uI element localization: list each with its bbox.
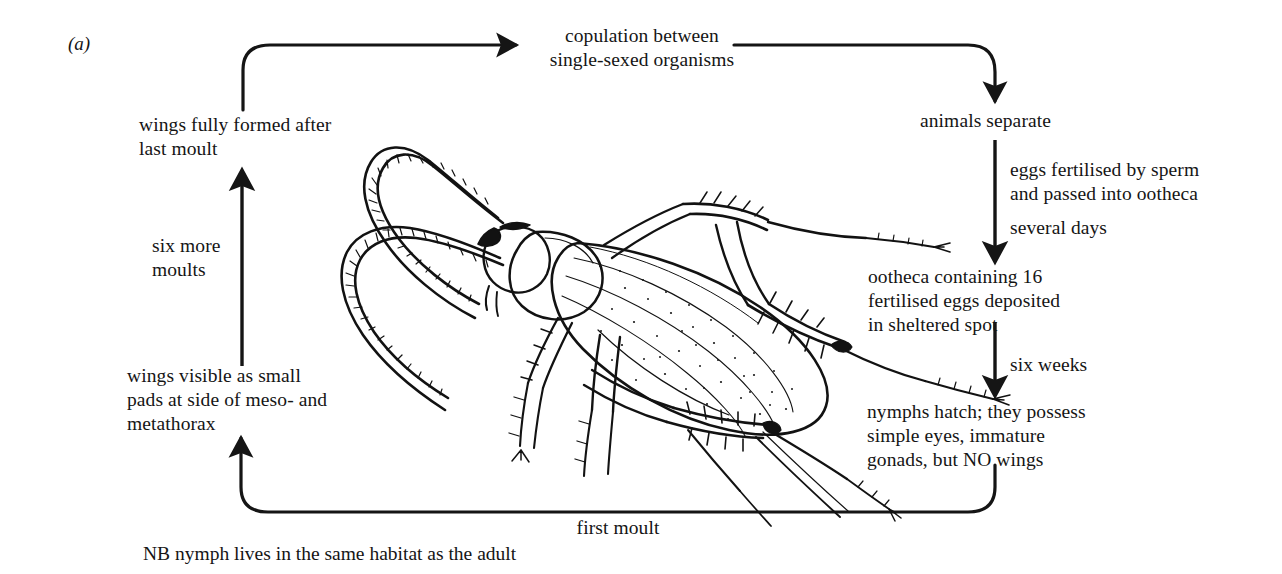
edge-copulation-to-separate bbox=[734, 45, 995, 101]
node-wings-visible: wings visible as small pads at side of m… bbox=[127, 364, 417, 436]
edge-label-several-days: several days bbox=[1010, 216, 1210, 240]
node-animals-separate: animals separate bbox=[920, 109, 1140, 133]
edge-label-six-weeks: six weeks bbox=[1010, 353, 1200, 377]
panel-label: (a) bbox=[68, 33, 90, 55]
node-ootheca-deposited: ootheca containing 16 fertilised eggs de… bbox=[868, 265, 1158, 337]
edge-label-first-moult: first moult bbox=[558, 516, 678, 540]
edge-label-six-more-moults: six more moults bbox=[152, 234, 262, 282]
node-copulation: copulation between single-sexed organism… bbox=[537, 24, 747, 72]
figure-panel: (a) bbox=[0, 0, 1282, 574]
edge-wings-to-copulation bbox=[243, 45, 516, 110]
node-nymphs-hatch: nymphs hatch; they possess simple eyes, … bbox=[867, 400, 1177, 472]
edge-label-eggs-fertilised: eggs fertilised by sperm and passed into… bbox=[1010, 158, 1260, 206]
node-wings-formed: wings fully formed after last moult bbox=[139, 113, 409, 161]
figure-note: NB nymph lives in the same habitat as th… bbox=[143, 543, 516, 565]
